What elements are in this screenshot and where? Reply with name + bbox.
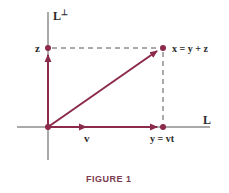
label-z: z (35, 42, 40, 54)
vector-x (48, 51, 157, 127)
label-x-equals-y-plus-z: x = y + z (172, 43, 208, 54)
label-L: L (203, 113, 211, 127)
label-y-equals-vt: y = vt (150, 133, 175, 144)
label-v: v (84, 132, 90, 144)
point-z (45, 45, 51, 51)
figure-canvas: L⊥ L z x = y + z v y = vt FIGURE 1 (0, 0, 229, 193)
figure-caption: FIGURE 1 (86, 174, 132, 184)
point-y (160, 124, 166, 130)
origin-point (45, 124, 51, 130)
point-x (160, 45, 166, 51)
label-L-perp: L⊥ (53, 8, 68, 23)
